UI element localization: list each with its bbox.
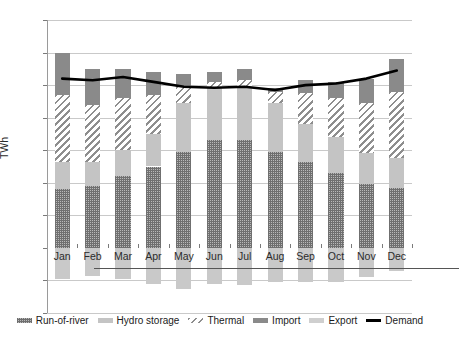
- y-axis-title: TWh: [0, 137, 10, 159]
- chart-legend: Run-of-riverHydro storageThermalImportEx…: [0, 315, 440, 326]
- x-tick-mark: [138, 244, 139, 248]
- x-tick-label-may: May: [174, 250, 194, 262]
- legend-label: Export: [328, 315, 357, 326]
- x-tick-mark: [351, 244, 352, 248]
- hatch-swatch-icon: [188, 318, 203, 323]
- light-solid-swatch-icon: [98, 318, 113, 323]
- legend-label: Import: [272, 315, 300, 326]
- x-tick-mark: [382, 244, 383, 248]
- x-tick-label-apr: Apr: [145, 250, 161, 262]
- x-tick-label-oct: Oct: [328, 250, 344, 262]
- x-tick-label-mar: Mar: [114, 250, 132, 262]
- x-tick-mark: [412, 244, 413, 248]
- x-tick-mark: [108, 244, 109, 248]
- y-tick-mark: [43, 313, 47, 314]
- gridline: [47, 313, 412, 314]
- x-tick-mark: [230, 244, 231, 248]
- line-swatch-icon: [366, 319, 381, 322]
- legend-label: Hydro storage: [117, 315, 180, 326]
- x-tick-label-aug: Aug: [266, 250, 285, 262]
- x-tick-mark: [199, 244, 200, 248]
- x-tick-mark: [260, 244, 261, 248]
- x-tick-label-jun: Jun: [206, 250, 223, 262]
- legend-label: Demand: [385, 315, 423, 326]
- x-axis-labels: JanFebMarAprMayJunJulAugSepOctNovDec: [47, 20, 412, 313]
- legend-item[interactable]: Hydro storage: [98, 315, 180, 326]
- x-tick-label-sep: Sep: [296, 250, 315, 262]
- pale-solid-swatch-icon: [309, 318, 324, 323]
- x-tick-label-nov: Nov: [357, 250, 376, 262]
- dark-solid-swatch-icon: [253, 318, 268, 323]
- plot-area: 76543210-1-2 JanFebMarAprMayJunJulAugSep…: [47, 20, 412, 313]
- legend-item[interactable]: Import: [253, 315, 300, 326]
- checker-swatch-icon: [17, 318, 32, 323]
- legend-label: Thermal: [207, 315, 244, 326]
- x-tick-mark: [77, 244, 78, 248]
- x-tick-mark: [169, 244, 170, 248]
- legend-label: Run-of-river: [36, 315, 89, 326]
- legend-item[interactable]: Thermal: [188, 315, 244, 326]
- x-tick-mark: [290, 244, 291, 248]
- x-tick-label-jul: Jul: [238, 250, 251, 262]
- legend-item[interactable]: Export: [309, 315, 357, 326]
- x-tick-label-dec: Dec: [387, 250, 406, 262]
- x-tick-label-feb: Feb: [84, 250, 102, 262]
- legend-item[interactable]: Run-of-river: [17, 315, 89, 326]
- x-tick-label-jan: Jan: [54, 250, 71, 262]
- legend-item[interactable]: Demand: [366, 315, 423, 326]
- x-tick-mark: [321, 244, 322, 248]
